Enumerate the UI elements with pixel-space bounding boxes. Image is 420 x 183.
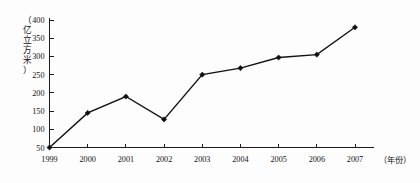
y-axis-title-char-3: 方 bbox=[23, 44, 32, 55]
data-series-line bbox=[50, 27, 356, 147]
x-axis-tick-label: 2005 bbox=[270, 155, 286, 164]
y-axis-title-char-1: 亿 bbox=[23, 24, 32, 35]
y-axis-title-char-2: 立 bbox=[23, 34, 32, 45]
y-axis-title: （ 亿 立 方 米 ） bbox=[23, 15, 32, 75]
data-point-marker bbox=[276, 55, 281, 60]
y-axis-tick-label: 100 bbox=[32, 125, 44, 134]
y-axis-tick-label: 300 bbox=[32, 52, 44, 61]
x-axis-tick-label: 2006 bbox=[309, 155, 325, 164]
data-point-markers bbox=[47, 25, 358, 150]
y-axis-title-char-0: （ bbox=[23, 15, 32, 25]
y-axis-tick-label: 350 bbox=[32, 34, 44, 43]
y-axis-title-char-5: ） bbox=[23, 65, 32, 75]
x-axis-tick-label: 1999 bbox=[41, 155, 57, 164]
y-axis-tick-label: 50 bbox=[36, 144, 44, 153]
x-axis-tick-label: 2002 bbox=[156, 155, 172, 164]
y-axis-ticks: 50100150200250300350400 bbox=[32, 16, 53, 153]
y-axis-tick-label: 250 bbox=[32, 71, 44, 80]
y-axis-title-char-4: 米 bbox=[23, 54, 32, 65]
x-axis-tick-label: 2000 bbox=[80, 155, 96, 164]
x-axis-tick-label: 2004 bbox=[232, 155, 248, 164]
y-axis-tick-label: 400 bbox=[32, 16, 44, 25]
x-axis-tick-label: 2001 bbox=[118, 155, 134, 164]
x-axis-title: （年份） bbox=[379, 155, 411, 165]
x-axis-tick-label: 2003 bbox=[194, 155, 210, 164]
y-axis-tick-label: 150 bbox=[32, 107, 44, 116]
x-axis-tick-label: 2007 bbox=[347, 155, 363, 164]
x-axis-ticks: 199920002001200220032004200520062007 bbox=[41, 144, 363, 164]
data-point-marker bbox=[238, 65, 243, 70]
line-chart-figure: （ 亿 立 方 米 ） 50100150200250300350400 1999… bbox=[0, 0, 420, 183]
y-axis-tick-label: 200 bbox=[32, 89, 44, 98]
chart-canvas: （ 亿 立 方 米 ） 50100150200250300350400 1999… bbox=[0, 0, 420, 183]
